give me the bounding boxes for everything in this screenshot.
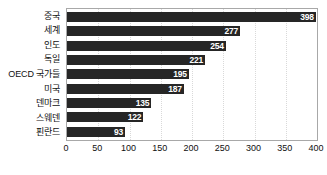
bar: 254 xyxy=(67,41,226,51)
bar: 195 xyxy=(67,69,189,79)
x-tick-label: 200 xyxy=(183,144,198,153)
bar-series: 398 277 254 221 195 xyxy=(67,9,317,140)
bar-row: 277 xyxy=(67,24,317,38)
bar-row: 398 xyxy=(67,10,317,24)
category-label: 중국 xyxy=(0,9,64,24)
x-tick-label: 150 xyxy=(152,144,167,153)
bar: 122 xyxy=(67,112,143,122)
x-tick-label: 250 xyxy=(215,144,230,153)
bar-chart: 중국 세계 인도 독일 OECD 국가들 미국 덴마크 스웨덴 핀란드 398 … xyxy=(0,0,327,175)
bar-row: 254 xyxy=(67,39,317,53)
x-axis: 050100150200250300350400 xyxy=(66,142,318,164)
bar-value-label: 187 xyxy=(168,85,182,94)
x-tick-label: 50 xyxy=(92,144,102,153)
gridline xyxy=(317,9,318,140)
x-tick-label: 300 xyxy=(246,144,261,153)
bar-row: 221 xyxy=(67,53,317,67)
x-tick-label: 400 xyxy=(308,144,323,153)
bar: 277 xyxy=(67,26,240,36)
plot-area: 398 277 254 221 195 xyxy=(66,8,318,141)
bar: 187 xyxy=(67,84,184,94)
bar-value-label: 122 xyxy=(128,113,142,122)
category-axis: 중국 세계 인도 독일 OECD 국가들 미국 덴마크 스웨덴 핀란드 xyxy=(0,8,64,141)
bar-row: 122 xyxy=(67,110,317,124)
category-label: 세계 xyxy=(0,24,64,39)
bar-row: 93 xyxy=(67,125,317,139)
bar-value-label: 254 xyxy=(210,42,224,51)
category-label: 미국 xyxy=(0,82,64,97)
bar: 135 xyxy=(67,98,151,108)
category-label: 덴마크 xyxy=(0,96,64,111)
category-label: 핀란드 xyxy=(0,126,64,141)
bar-row: 195 xyxy=(67,67,317,81)
bar-value-label: 398 xyxy=(300,13,314,22)
bar-value-label: 93 xyxy=(114,128,123,137)
category-label: 독일 xyxy=(0,53,64,68)
bar: 93 xyxy=(67,127,125,137)
bar: 398 xyxy=(67,12,316,22)
bar: 221 xyxy=(67,55,205,65)
bar-value-label: 221 xyxy=(190,56,204,65)
bar-value-label: 135 xyxy=(136,99,150,108)
category-label: 인도 xyxy=(0,38,64,53)
category-label: OECD 국가들 xyxy=(0,67,64,82)
bar-row: 135 xyxy=(67,96,317,110)
x-tick-label: 0 xyxy=(63,144,68,153)
bar-row: 187 xyxy=(67,82,317,96)
x-tick-label: 100 xyxy=(121,144,136,153)
bar-value-label: 277 xyxy=(225,27,239,36)
x-tick-label: 350 xyxy=(277,144,292,153)
category-label: 스웨덴 xyxy=(0,111,64,126)
bar-value-label: 195 xyxy=(173,70,187,79)
